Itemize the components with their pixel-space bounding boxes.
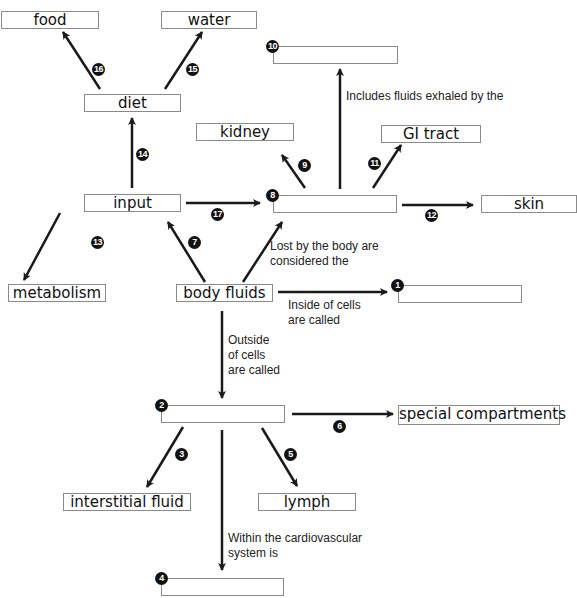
badge-3: 3 bbox=[175, 448, 188, 461]
badge-6: 6 bbox=[333, 420, 346, 433]
metabolism-box: metabolism bbox=[8, 284, 106, 302]
note-exhaled: Includes fluids exhaled by the bbox=[346, 89, 503, 104]
note-inside-cells: Inside of cells are called bbox=[288, 298, 361, 328]
food-box: food bbox=[1, 11, 99, 29]
note-outside-cells: Outside of cells are called bbox=[228, 333, 280, 378]
badge-9: 9 bbox=[298, 159, 311, 172]
interstitial-fluid-box: interstitial fluid bbox=[63, 493, 191, 511]
kidney-box: kidney bbox=[196, 123, 294, 141]
badge-8: 8 bbox=[266, 189, 279, 202]
badge-10: 10 bbox=[266, 40, 279, 53]
badge-15: 15 bbox=[186, 63, 199, 76]
badge-1: 1 bbox=[391, 279, 404, 292]
badge-7: 7 bbox=[188, 236, 201, 249]
badge-5: 5 bbox=[284, 448, 297, 461]
badge-13: 13 bbox=[91, 236, 104, 249]
blank-box-1[interactable] bbox=[398, 285, 522, 303]
badge-16: 16 bbox=[92, 63, 105, 76]
water-box: water bbox=[161, 11, 257, 29]
badge-17: 17 bbox=[211, 208, 224, 221]
gi-tract-box: GI tract bbox=[381, 125, 481, 143]
lymph-box: lymph bbox=[258, 493, 356, 511]
note-lost: Lost by the body are considered the bbox=[270, 239, 379, 269]
blank-box-8[interactable] bbox=[273, 195, 397, 213]
blank-box-10[interactable] bbox=[273, 46, 398, 64]
skin-box: skin bbox=[481, 195, 577, 213]
input-box: input bbox=[84, 194, 181, 212]
badge-14: 14 bbox=[136, 148, 149, 161]
badge-12: 12 bbox=[425, 209, 438, 222]
body-fluids-box: body fluids bbox=[176, 284, 273, 302]
badge-11: 11 bbox=[368, 157, 381, 170]
note-cardiovascular: Within the cardiovascular system is bbox=[228, 531, 362, 561]
diet-box: diet bbox=[84, 94, 181, 112]
special-compartments-box: special compartments bbox=[398, 405, 560, 425]
badge-4: 4 bbox=[155, 572, 168, 585]
badge-2: 2 bbox=[155, 399, 168, 412]
blank-box-2[interactable] bbox=[161, 405, 285, 423]
blank-box-4[interactable] bbox=[161, 578, 284, 596]
body-fluids-concept-map: food water diet kidney GI tract input sk… bbox=[0, 0, 577, 598]
